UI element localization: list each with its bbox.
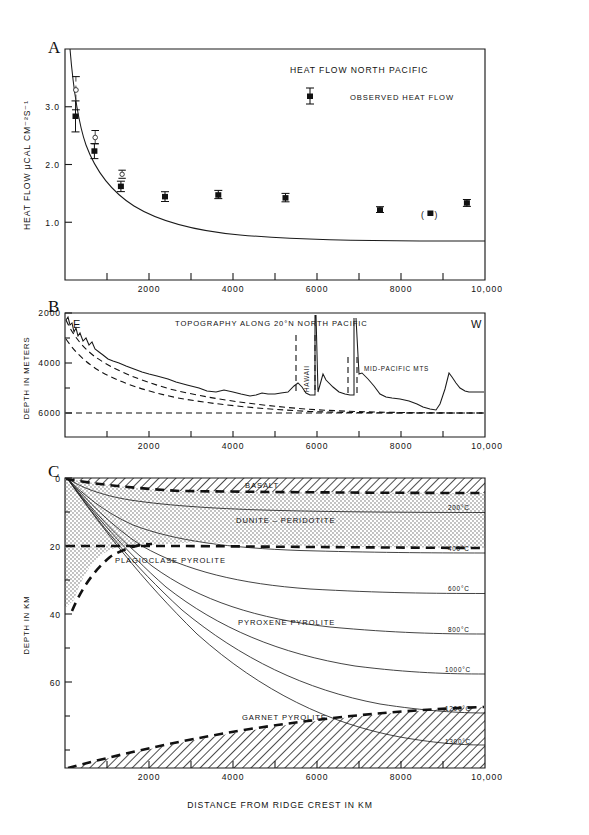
panel-c-ytick-60: 60 — [50, 678, 61, 688]
panel-c: C BASALT DUN — [22, 462, 503, 782]
panel-a-title: HEAT FLOW NORTH PACIFIC — [290, 65, 428, 75]
paren-right: ) — [435, 210, 439, 220]
panel-a-y-ticks: 1.0 2.0 3.0 — [45, 102, 72, 228]
panel-b-label-midpacific: MID-PACIFIC MTS — [364, 365, 429, 372]
panel-a-ylabel: HEAT FLOW μCAL CM⁻²S⁻¹ — [22, 100, 32, 230]
data-point: ( ) — [421, 210, 438, 220]
panel-b-xtick-4000: 4000 — [222, 441, 245, 451]
data-point — [117, 181, 125, 191]
panel-b-x-ticks: 2000 4000 6000 8000 10,000 — [107, 431, 503, 451]
data-point — [214, 190, 222, 198]
panel-b: B 2000 4000 6000 2000 4000 6000 8000 — [22, 297, 503, 451]
data-point — [282, 193, 290, 201]
data-point — [90, 144, 98, 159]
panel-c-label-plagioclase-pyrolite: PLAGIOCLASE PYROLITE — [115, 556, 226, 565]
paren-left: ( — [421, 210, 425, 220]
panel-b-east-marker: E — [73, 318, 80, 330]
panel-b-ylabel: DEPTH IN METERS — [22, 337, 31, 420]
panel-a-xtick-2000: 2000 — [138, 284, 161, 294]
panel-b-xtick-6000: 6000 — [306, 441, 329, 451]
panel-b-xtick-10000: 10,000 — [471, 441, 503, 451]
data-point — [118, 170, 125, 178]
panel-a: A 1.0 2.0 3.0 2000 4000 6000 8000 — [22, 38, 503, 294]
panel-c-ytick-20: 20 — [50, 542, 61, 552]
panel-c-ytick-0: 0 — [55, 474, 61, 484]
panel-a-ytick-3: 3.0 — [45, 102, 60, 112]
panel-c-label-garnet-pyrolite: GARNET PYROLITE — [242, 713, 327, 722]
figure-page: A 1.0 2.0 3.0 2000 4000 6000 8000 — [0, 0, 589, 835]
panel-c-xtick-4000: 4000 — [222, 772, 245, 782]
panel-c-ytick-40: 40 — [50, 610, 61, 620]
panel-c-isotherm-600: 600°C — [448, 585, 470, 592]
panel-a-frame — [65, 49, 485, 280]
panel-c-isotherm-1300: 1300°C — [445, 738, 471, 745]
panel-b-label-hawaii: HAWAII — [303, 365, 310, 392]
panel-c-isotherm-200: 200°C — [448, 504, 470, 511]
panel-b-west-marker: W — [471, 318, 482, 330]
panel-a-xtick-10000: 10,000 — [471, 284, 503, 294]
panel-c-xtick-2000: 2000 — [138, 772, 161, 782]
panel-a-xtick-4000: 4000 — [222, 284, 245, 294]
panel-b-topography-profile — [66, 315, 484, 410]
panel-c-isotherm-1000: 1000°C — [445, 666, 471, 673]
panel-a-xtick-6000: 6000 — [306, 284, 329, 294]
panel-c-label-basalt: BASALT — [245, 481, 279, 490]
panel-c-ylabel: DEPTH IN KM — [22, 596, 31, 655]
panel-c-isotherm-800: 800°C — [448, 626, 470, 633]
panel-c-label-dunite-peridotite: DUNITE – PERIDOTITE — [236, 516, 335, 525]
panel-a-letter: A — [48, 38, 61, 57]
panel-b-ytick-6000: 6000 — [38, 408, 61, 418]
data-point — [161, 192, 169, 202]
data-point — [376, 207, 384, 213]
data-point — [463, 200, 471, 207]
panel-b-theoretical-2 — [66, 339, 484, 413]
panel-c-label-pyroxene-pyrolite: PYROXENE PYROLITE — [238, 618, 335, 627]
panel-a-legend-symbol — [306, 88, 314, 104]
panel-a-ytick-1: 1.0 — [45, 218, 60, 228]
panel-a-xtick-8000: 8000 — [390, 284, 413, 294]
panel-c-isotherm-400: 400°C — [448, 545, 470, 552]
panel-a-x-ticks: 2000 4000 6000 8000 10,000 — [107, 273, 503, 294]
panel-c-xtick-10000: 10,000 — [471, 772, 503, 782]
panel-b-y-ticks: 2000 4000 6000 — [38, 308, 72, 418]
panel-b-xtick-8000: 8000 — [390, 441, 413, 451]
figure-xlabel: DISTANCE FROM RIDGE CREST IN KM — [187, 800, 373, 810]
panel-a-legend-label: OBSERVED HEAT FLOW — [350, 93, 454, 102]
figure-svg: A 1.0 2.0 3.0 2000 4000 6000 8000 — [0, 0, 589, 835]
panel-c-xtick-8000: 8000 — [390, 772, 413, 782]
panel-c-xtick-6000: 6000 — [306, 772, 329, 782]
panel-a-ytick-2: 2.0 — [45, 160, 60, 170]
panel-b-xtick-2000: 2000 — [138, 441, 161, 451]
panel-b-ytick-2000: 2000 — [38, 308, 61, 318]
panel-b-ytick-4000: 4000 — [38, 358, 61, 368]
panel-b-title: TOPOGRAPHY ALONG 20°N NORTH PACIFIC — [175, 319, 368, 328]
data-point — [91, 131, 99, 144]
panel-c-isotherm-1200: 1200°C — [445, 705, 471, 712]
